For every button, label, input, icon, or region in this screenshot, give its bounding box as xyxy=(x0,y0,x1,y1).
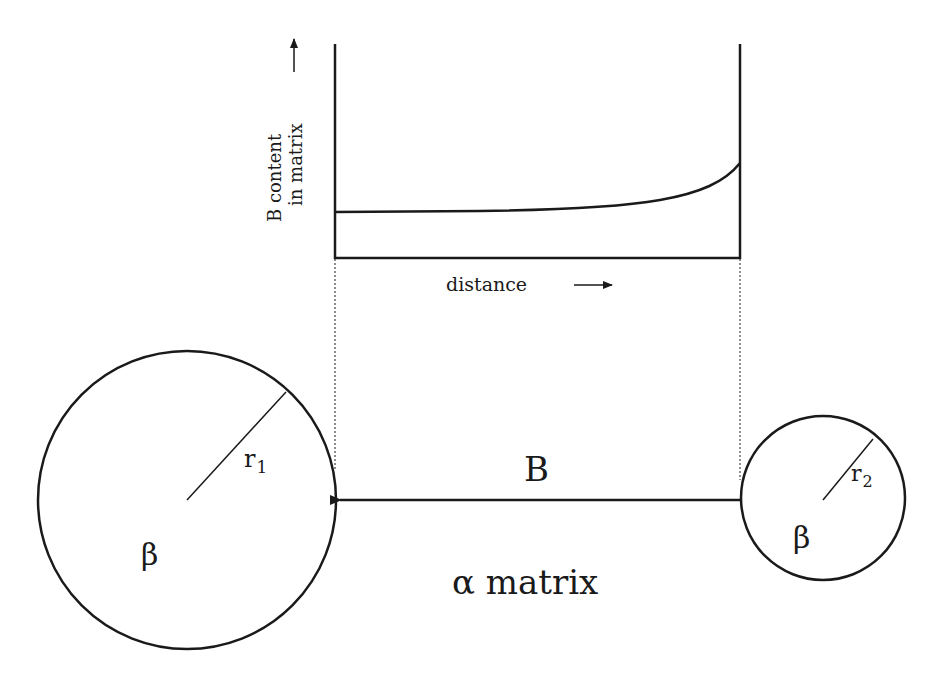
concentration-curve xyxy=(335,163,740,212)
matrix-label: α matrix xyxy=(452,562,598,602)
large-particle-phase-label: β xyxy=(141,537,158,572)
x-axis-label: distance xyxy=(446,273,527,295)
y-axis-label: B content in matrix xyxy=(264,123,306,222)
radius-r2-label: r2 xyxy=(851,461,873,491)
y-axis-label-line2: in matrix xyxy=(285,123,306,206)
radius-r1-label: r1 xyxy=(244,445,267,477)
diagram-canvas: B content in matrix distance r1 β r2 β B… xyxy=(0,0,943,675)
flux-label: B xyxy=(524,449,549,489)
radius-r1-line xyxy=(187,392,286,500)
small-particle-phase-label: β xyxy=(793,520,810,555)
y-axis-label-line1: B content xyxy=(264,133,285,222)
small-beta-particle: r2 β xyxy=(741,416,905,580)
concentration-plot: B content in matrix distance xyxy=(264,39,741,295)
large-beta-particle: r1 β xyxy=(38,351,336,649)
